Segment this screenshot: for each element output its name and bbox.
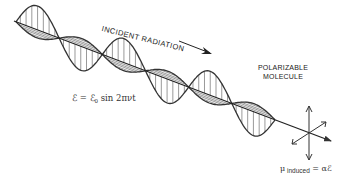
dipole-eq-rhs: = αℰ xyxy=(310,164,332,173)
dipole-eq-sub: induced xyxy=(285,167,310,174)
field-eq-rhs: sin 2πνt xyxy=(98,93,136,103)
radiation-diagram xyxy=(0,0,346,182)
propagation-axis xyxy=(14,21,331,141)
field-equation: ℰ = ℰ0 sin 2πνt xyxy=(72,93,136,104)
molecule-label-line2: MOLECULE xyxy=(258,72,308,81)
polarizable-molecule-label: POLARIZABLE MOLECULE xyxy=(258,63,308,81)
dipole-equation: μ induced = αℰ xyxy=(280,164,332,174)
molecule-label-line1: POLARIZABLE xyxy=(258,63,308,72)
field-eq-lhs: ℰ = ℰ xyxy=(72,93,95,103)
polarization-arrows-icon xyxy=(292,106,326,160)
